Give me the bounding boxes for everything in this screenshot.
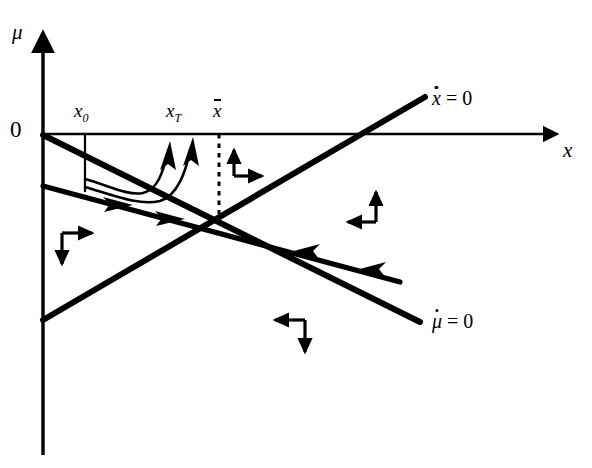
curve-label-xdot-zero: x = 0 bbox=[432, 88, 472, 108]
curve-label-mudot-base: μ bbox=[432, 310, 442, 332]
axis-origin-label: 0 bbox=[10, 118, 22, 141]
tick-label-x0: x0 bbox=[74, 101, 88, 124]
xdot-zero-locus bbox=[43, 97, 425, 320]
quadrant-upper-middle-arrow bbox=[234, 150, 262, 176]
tick-label-x0-sub: 0 bbox=[82, 111, 88, 125]
axis-label-mu: μ bbox=[12, 22, 23, 43]
quadrant-left-arrow bbox=[62, 233, 92, 264]
curve-label-xdot-base: x bbox=[432, 87, 441, 109]
tick-label-xT-sub: T bbox=[174, 111, 181, 125]
overline-bar bbox=[214, 99, 221, 101]
phase-diagram-figure: μ 0 x x0 xT x x = 0 μ = 0 bbox=[0, 0, 592, 468]
axis-label-x: x bbox=[563, 140, 572, 161]
overline-wrapper: x bbox=[213, 101, 221, 120]
traj-from-x0 bbox=[85, 141, 176, 194]
tick-label-xbar: x bbox=[213, 101, 221, 120]
mudot-zero-locus bbox=[43, 135, 420, 322]
curve-label-xdot-rhs: = 0 bbox=[446, 87, 472, 109]
tick-label-xbar-base: x bbox=[213, 100, 221, 121]
curve-label-mudot-zero: μ = 0 bbox=[432, 311, 473, 331]
dot-accent-wrapper-mu: μ bbox=[432, 311, 442, 331]
saddle-path bbox=[43, 186, 400, 282]
curve-label-mudot-rhs: = 0 bbox=[447, 310, 473, 332]
phase-diagram-canvas bbox=[0, 0, 592, 468]
dot-accent-wrapper-x: x bbox=[432, 88, 441, 108]
quadrant-bottom-arrow bbox=[275, 320, 305, 352]
quadrant-right-arrow bbox=[348, 192, 376, 222]
tick-label-xT: xT bbox=[166, 101, 181, 124]
